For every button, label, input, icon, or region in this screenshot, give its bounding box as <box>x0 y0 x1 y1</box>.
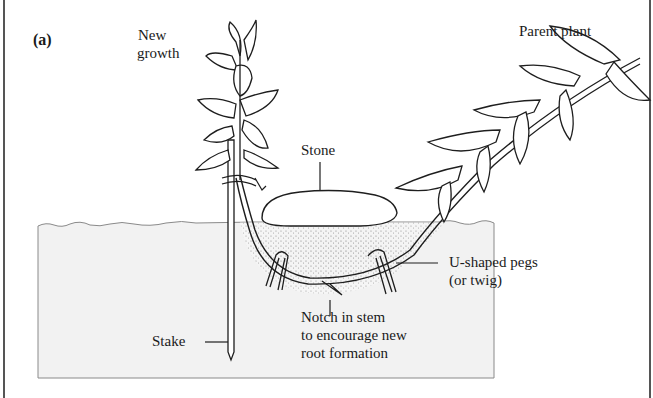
label-notch-line1: Notch in stem <box>301 309 385 326</box>
panel-label: (a) <box>33 31 52 48</box>
stone <box>262 191 397 226</box>
diagram-frame: (a) New growth Parent plant Stone U-shap… <box>0 0 653 398</box>
label-stone: Stone <box>301 142 335 159</box>
label-stake: Stake <box>152 333 185 350</box>
label-new-growth-line2: growth <box>137 45 180 62</box>
label-or-twig: (or twig) <box>449 272 502 289</box>
label-parent-plant: Parent plant <box>519 23 591 40</box>
new-growth-leaves <box>196 20 278 170</box>
label-notch-line2: to encourage new <box>301 327 407 344</box>
label-notch-line3: root formation <box>301 345 388 362</box>
stake <box>228 140 234 360</box>
label-new-growth-line1: New <box>138 27 166 44</box>
parent-plant-leaves <box>396 26 650 222</box>
label-u-shaped-pegs: U-shaped pegs <box>449 254 538 271</box>
